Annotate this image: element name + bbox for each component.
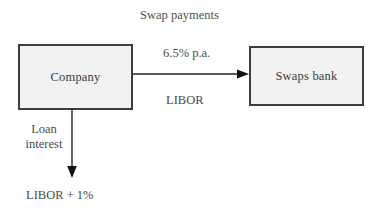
node-swaps-bank: Swaps bank (249, 46, 364, 106)
edge-label-loan-interest-line2: interest (20, 137, 68, 152)
arrow-company-to-loan (67, 110, 77, 178)
edge-label-loan-interest: Loan interest (20, 122, 68, 153)
node-company-label: Company (50, 71, 100, 84)
arrow-company-to-swaps-bank (133, 69, 249, 78)
loan-outflow-label: LIBOR + 1% (26, 188, 93, 203)
node-swaps-bank-label: Swaps bank (275, 70, 337, 83)
edge-label-fixed-rate: 6.5% p.a. (163, 46, 210, 61)
edge-label-floating-rate: LIBOR (166, 93, 204, 108)
arrow-company-to-swaps-bank-head (237, 69, 249, 78)
node-company: Company (18, 44, 133, 110)
arrow-company-to-loan-head (67, 166, 77, 178)
diagram-title: Swap payments (140, 8, 219, 23)
swap-payments-diagram: Swap payments Company Swaps bank 6.5% p.… (0, 0, 379, 214)
edge-label-loan-interest-line1: Loan (20, 122, 68, 137)
